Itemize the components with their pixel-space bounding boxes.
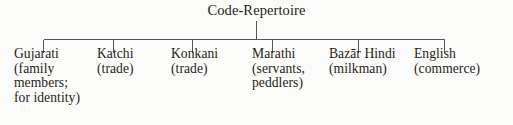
child-node-bazar-hindi-line-1: Bazār Hindi — [329, 47, 396, 62]
child-node-konkani-line-1: Konkani — [171, 47, 218, 62]
child-node-gujarati: Gujarati (family members; for identity) — [14, 47, 80, 105]
child-node-gujarati-line-4: for identity) — [14, 91, 80, 106]
child-node-konkani: Konkani (trade) — [171, 47, 218, 76]
child-node-gujarati-line-3: members; — [14, 76, 80, 91]
child-node-gujarati-line-2: (family — [14, 62, 80, 77]
child-node-english: English (commerce) — [414, 47, 480, 76]
child-node-marathi: Marathi (servants, peddlers) — [252, 47, 305, 91]
child-node-english-line-2: (commerce) — [414, 62, 480, 77]
child-node-katchi: Katchi (trade) — [97, 47, 134, 76]
child-node-english-line-1: English — [414, 47, 480, 62]
code-repertoire-tree-diagram: Code-Repertoire Gujarati (family members… — [0, 0, 513, 125]
child-node-marathi-line-2: (servants, — [252, 62, 305, 77]
child-node-bazar-hindi-line-2: (milkman) — [329, 62, 396, 77]
child-node-katchi-line-1: Katchi — [97, 47, 134, 62]
child-node-marathi-line-1: Marathi — [252, 47, 305, 62]
root-node-label: Code-Repertoire — [0, 2, 513, 19]
child-node-bazar-hindi: Bazār Hindi (milkman) — [329, 47, 396, 76]
child-node-gujarati-line-1: Gujarati — [14, 47, 80, 62]
child-node-konkani-line-2: (trade) — [171, 62, 218, 77]
child-node-marathi-line-3: peddlers) — [252, 76, 305, 91]
child-node-katchi-line-2: (trade) — [97, 62, 134, 77]
